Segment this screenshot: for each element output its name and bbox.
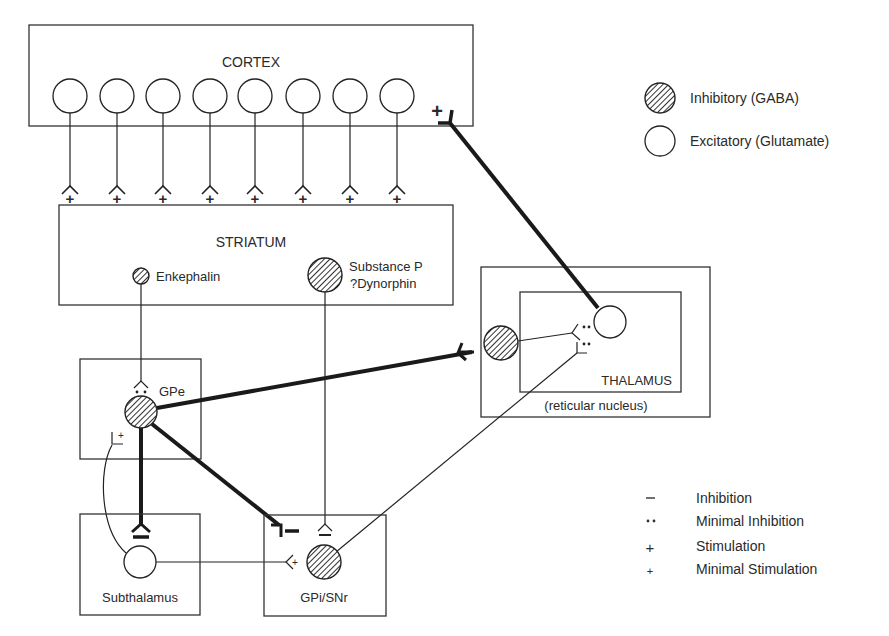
- subthalamus-region: Subthalamus: [80, 514, 200, 615]
- minimal-stimulation-symbol: +: [647, 565, 653, 577]
- projection-4: +: [202, 113, 218, 207]
- legend-label: Minimal Stimulation: [696, 561, 817, 577]
- gpe-subthalamus-projection: [132, 428, 150, 537]
- reticular-nucleus-region: (reticular nucleus) THALAMUS: [481, 267, 710, 417]
- gpe-label: GPe: [159, 384, 185, 399]
- enkephalin-neuron: [133, 268, 149, 284]
- cortex-region: CORTEX: [29, 25, 473, 126]
- minimal-stimulation-mark: +: [118, 430, 124, 441]
- cortex-excitatory-neuron: [286, 79, 320, 113]
- dynorphin-label: ?Dynorphin: [350, 276, 417, 291]
- projection-7: +: [342, 113, 358, 207]
- subthalamus-gpe-projection: +: [103, 430, 126, 553]
- basal-ganglia-circuit-diagram: CORTEX + + + + + + + + STRIATUM Enkephal…: [0, 0, 889, 636]
- legend-label: Inhibitory (GABA): [690, 90, 799, 106]
- legend-item-excitatory: Excitatory (Glutamate): [645, 126, 829, 156]
- cortex-excitatory-neuron: [193, 79, 227, 113]
- cell-type-legend: Inhibitory (GABA) Excitatory (Glutamate): [645, 83, 829, 156]
- stimulation-symbol: +: [646, 539, 655, 556]
- substance-p-neuron: [308, 258, 342, 292]
- thalamus-excitatory-neuron: [594, 306, 626, 338]
- cortex-excitatory-neuron: [333, 79, 367, 113]
- minimal-stimulation-mark: +: [292, 557, 298, 568]
- projection-8: +: [389, 113, 405, 207]
- thalamocortical-projection: +: [431, 100, 598, 308]
- striatum-label: STRIATUM: [216, 234, 287, 250]
- reticular-nucleus-label: (reticular nucleus): [544, 398, 647, 413]
- pallidothalamic-projection: [336, 342, 590, 552]
- reticulothalamic-projection: [518, 324, 590, 341]
- excitatory-cell-icon: [645, 126, 675, 156]
- cortex-label: CORTEX: [222, 54, 281, 70]
- legend-item-minimal-stimulation: + Minimal Stimulation: [647, 561, 818, 577]
- cortex-excitatory-neuron: [380, 79, 414, 113]
- projection-2: +: [109, 113, 125, 207]
- striato-gpi-projection: [318, 292, 332, 535]
- gpi-snr-label: GPi/SNr: [300, 590, 348, 605]
- gpi-snr-inhibitory-neuron: [307, 545, 341, 579]
- cortex-excitatory-neuron: [146, 79, 180, 113]
- subthalamus-gpi-projection: +: [156, 555, 298, 569]
- legend-item-inhibitory: Inhibitory (GABA): [645, 83, 799, 113]
- gpe-gpi-projection: [152, 424, 299, 537]
- projection-6: +: [295, 113, 311, 207]
- legend-item-inhibition: Inhibition: [646, 490, 752, 506]
- inhibitory-cell-icon: [645, 83, 675, 113]
- minimal-inhibition-symbol: [647, 520, 650, 523]
- corticostriatal-projections: + + + + + + + +: [62, 113, 405, 207]
- legend-label: Stimulation: [696, 538, 765, 554]
- synapse-type-legend: Inhibition Minimal Inhibition + Stimulat…: [646, 490, 818, 577]
- enkephalin-label: Enkephalin: [156, 269, 220, 284]
- legend-label: Inhibition: [696, 490, 752, 506]
- striato-gpe-projection: [134, 284, 148, 393]
- reticular-inhibitory-neuron: [484, 326, 518, 360]
- cortex-excitatory-neuron: [238, 79, 272, 113]
- legend-item-stimulation: + Stimulation: [646, 538, 766, 556]
- cortex-excitatory-neuron: [53, 79, 87, 113]
- cortex-neurons: [53, 79, 414, 113]
- legend-item-minimal-inhibition: Minimal Inhibition: [647, 513, 805, 529]
- projection-5: +: [247, 113, 263, 207]
- gpe-reticular-projection: [157, 343, 474, 408]
- subthalamus-label: Subthalamus: [102, 590, 178, 605]
- stimulation-mark: +: [431, 100, 443, 122]
- legend-label: Minimal Inhibition: [696, 513, 804, 529]
- gpe-inhibitory-neuron: [125, 396, 157, 428]
- projection-1: +: [62, 113, 78, 207]
- projection-3: +: [155, 113, 171, 207]
- legend-label: Excitatory (Glutamate): [690, 133, 829, 149]
- cortex-excitatory-neuron: [100, 79, 134, 113]
- subthalamus-excitatory-neuron: [124, 546, 156, 578]
- substance-p-label: Substance P: [349, 259, 423, 274]
- thalamus-label: THALAMUS: [601, 373, 672, 388]
- striatum-region: STRIATUM Enkephalin Substance P ?Dynorph…: [59, 205, 453, 305]
